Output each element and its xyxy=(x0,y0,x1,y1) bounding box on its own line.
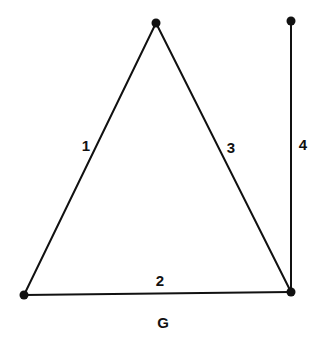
edge-label-1: 1 xyxy=(82,138,90,153)
graph-svg xyxy=(0,0,323,345)
vertex-bottom-left xyxy=(20,291,29,300)
edge-label-2: 2 xyxy=(156,273,164,288)
graph-diagram: 1 2 3 4 G xyxy=(0,0,323,345)
vertex-bottom-right xyxy=(287,288,296,297)
vertex-top-right xyxy=(287,17,296,26)
edge-2 xyxy=(24,292,291,295)
edge-label-4: 4 xyxy=(299,137,307,152)
edge-1 xyxy=(24,23,156,295)
edge-3 xyxy=(156,23,291,292)
edge-label-3: 3 xyxy=(227,140,235,155)
graph-caption: G xyxy=(157,315,169,330)
vertex-top xyxy=(152,19,161,28)
